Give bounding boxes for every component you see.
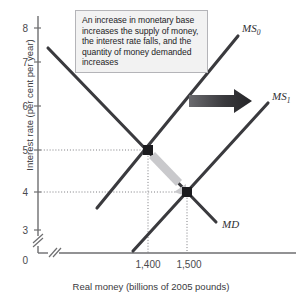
y-tick-label-0: 0 [22,255,28,266]
y-axis-title: Interest rate (per cent per year) [24,39,35,170]
x-axis-title-container: Real money (billions of 2005 pounds) [0,276,302,294]
curve-labels-group: MS0 MS1 MD [221,22,290,230]
callout-box: An increase in monetary base increases t… [75,10,208,73]
y-tick-label-4: 4 [22,187,28,198]
initial-equilibrium-point[interactable] [143,145,153,155]
y-tick-label-3: 3 [22,225,28,236]
x-tick-label-1500: 1,500 [176,259,201,270]
x-tick-label-1400: 1,400 [135,259,160,270]
callout-text: An increase in monetary base increases t… [82,15,202,68]
ms1-label: MS1 [271,90,290,105]
money-market-chart: 8 7 6 5 4 3 0 1,400 1,500 MS0 MS1 MD An … [0,0,302,294]
x-axis-title: Real money (billions of 2005 pounds) [73,281,230,292]
y-axis-title-container: Interest rate (per cent per year) [19,25,37,185]
supply-shift-arrow [189,89,252,113]
movement-along-demand-arrow [149,152,186,196]
ms1-curve[interactable] [133,103,268,251]
md-label: MD [221,218,239,230]
ms0-label: MS0 [241,22,261,37]
new-equilibrium-point[interactable] [182,187,192,197]
